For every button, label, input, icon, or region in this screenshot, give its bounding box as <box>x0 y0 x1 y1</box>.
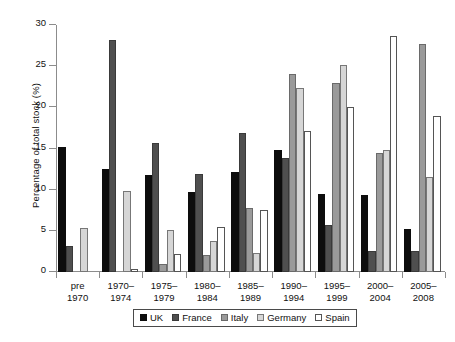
bar-italy <box>246 208 253 272</box>
bar-uk <box>274 150 281 272</box>
x-tick <box>402 272 403 278</box>
x-axis-label: 1985–1989 <box>229 280 272 303</box>
bar-germany <box>253 253 260 272</box>
x-tick <box>142 272 143 278</box>
bar-france <box>325 225 332 272</box>
x-axis-label-line: 1990– <box>272 280 315 292</box>
x-axis-label: 1975–1979 <box>142 280 185 303</box>
bar-group-bars <box>188 25 225 272</box>
bar-group-bars <box>145 25 182 272</box>
y-tick-label: 30 <box>35 17 46 28</box>
x-tick <box>186 272 187 278</box>
bar-italy <box>203 255 210 272</box>
bar-group-bars <box>102 25 139 272</box>
bar-france <box>411 251 418 272</box>
x-axis-label-line: 1989 <box>229 292 272 304</box>
bar-group-bars <box>58 25 95 272</box>
bar-italy <box>159 264 166 272</box>
bar-group <box>145 25 182 272</box>
bar-group <box>361 25 398 272</box>
y-tick: 20 <box>49 106 56 107</box>
bar-spain <box>433 116 440 272</box>
x-axis-label: 1990–1994 <box>272 280 315 303</box>
bar-uk <box>318 194 325 272</box>
bar-spain <box>131 269 138 272</box>
bar-uk <box>361 195 368 272</box>
y-tick-label: 20 <box>35 99 46 110</box>
legend-item-france[interactable]: France <box>172 312 212 323</box>
bar-uk <box>188 192 195 272</box>
bar-uk <box>102 169 109 272</box>
legend-swatch-icon <box>257 314 264 321</box>
legend-label: UK <box>150 312 163 323</box>
bar-germany <box>123 191 130 272</box>
x-axis-label-line: pre <box>56 280 99 292</box>
bar-group-bars <box>361 25 398 272</box>
bar-spain <box>217 227 224 272</box>
x-tick <box>359 272 360 278</box>
x-axis-label-line: 1980– <box>186 280 229 292</box>
x-axis-label-line: 2004 <box>359 292 402 304</box>
legend-label: Italy <box>231 312 248 323</box>
bar-france <box>195 174 202 272</box>
x-axis-label-line: 1979 <box>142 292 185 304</box>
bar-uk <box>145 175 152 272</box>
bar-italy <box>289 74 296 272</box>
x-axis-label-line: 1974 <box>99 292 142 304</box>
bar-spain <box>347 107 354 272</box>
x-axis-label: pre1970 <box>56 280 99 303</box>
bar-group <box>231 25 268 272</box>
bar-spain <box>174 254 181 272</box>
y-tick: 30 <box>49 24 56 25</box>
bar-group <box>188 25 225 272</box>
bar-germany <box>383 150 390 272</box>
y-tick-label: 5 <box>41 223 46 234</box>
bar-uk <box>58 147 65 272</box>
x-axis-label: 2000–2004 <box>359 280 402 303</box>
legend-item-spain[interactable]: Spain <box>315 312 349 323</box>
bar-uk <box>231 172 238 272</box>
chart-legend: UKFranceItalyGermanySpain <box>133 309 357 327</box>
bar-group <box>404 25 441 272</box>
x-axis-label-line: 1994 <box>272 292 315 304</box>
x-axis-label: 1970–1974 <box>99 280 142 303</box>
x-axis-label-line: 2008 <box>402 292 445 304</box>
bar-group-bars <box>231 25 268 272</box>
bar-germany <box>80 228 87 272</box>
plot-area: 051015202530 <box>56 25 445 272</box>
bar-uk <box>404 229 411 272</box>
x-axis-label: 2005–2008 <box>402 280 445 303</box>
legend-label: France <box>182 312 212 323</box>
y-tick: 15 <box>49 148 56 149</box>
x-axis-label-line: 2005– <box>402 280 445 292</box>
bar-france <box>152 143 159 272</box>
x-axis-label: 1995–1999 <box>315 280 358 303</box>
bar-spain <box>390 36 397 272</box>
x-axis-label-line: 2000– <box>359 280 402 292</box>
x-tick <box>315 272 316 278</box>
x-axis-label-line: 1975– <box>142 280 185 292</box>
legend-item-germany[interactable]: Germany <box>257 312 306 323</box>
bar-france <box>66 246 73 272</box>
legend-swatch-icon <box>140 314 147 321</box>
legend-item-uk[interactable]: UK <box>140 312 163 323</box>
y-tick: 5 <box>49 230 56 231</box>
bar-france <box>109 40 116 272</box>
bar-spain <box>304 131 311 272</box>
bar-italy <box>419 44 426 272</box>
y-tick: 10 <box>49 189 56 190</box>
bar-germany <box>426 177 433 272</box>
bar-germany <box>296 88 303 272</box>
y-tick-label: 10 <box>35 182 46 193</box>
y-tick-label: 25 <box>35 58 46 69</box>
y-axis-line <box>56 25 57 272</box>
bar-italy <box>332 83 339 272</box>
x-axis-label-line: 1984 <box>186 292 229 304</box>
x-axis-label-line: 1970 <box>56 292 99 304</box>
bar-group <box>102 25 139 272</box>
x-axis-label-line: 1970– <box>99 280 142 292</box>
legend-item-italy[interactable]: Italy <box>221 312 248 323</box>
bar-italy <box>376 153 383 272</box>
bar-france <box>282 158 289 272</box>
bar-group <box>58 25 95 272</box>
